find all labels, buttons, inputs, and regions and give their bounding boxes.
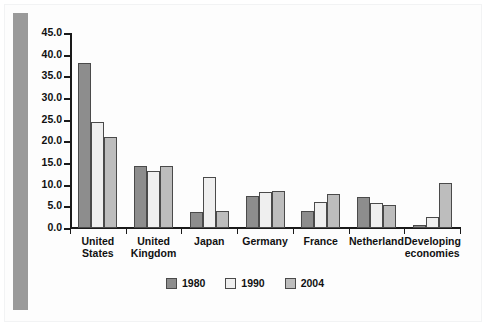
category-label-line: Japan <box>181 236 237 248</box>
bar <box>259 192 272 228</box>
bar <box>203 177 216 228</box>
y-axis-tick-label: 20.0 <box>22 134 62 146</box>
y-axis-tick-label: 40.0 <box>22 48 62 60</box>
bar <box>246 196 259 228</box>
x-axis-tick-mark <box>349 227 350 234</box>
category-label-line: Developing <box>404 236 460 248</box>
x-axis-category-label: Germany <box>237 236 293 248</box>
legend-label: 1980 <box>182 277 205 289</box>
x-axis-tick-mark <box>237 227 238 234</box>
x-axis-tick-mark <box>460 227 461 234</box>
bar <box>160 166 173 228</box>
y-axis-tick-label: 25.0 <box>22 113 62 125</box>
x-axis-tick-mark <box>126 227 127 234</box>
bar-group <box>413 33 452 228</box>
bar <box>134 166 147 228</box>
legend-label: 2004 <box>301 277 324 289</box>
x-axis-category-label: UnitedStates <box>70 236 126 259</box>
bar <box>147 171 160 228</box>
bar-group <box>190 33 229 228</box>
y-axis-tick-label: 0.0 <box>22 221 62 233</box>
plot-area <box>70 33 460 228</box>
y-axis-tick-label: 45.0 <box>22 26 62 38</box>
y-axis-tick-label: 15.0 <box>22 156 62 168</box>
legend-item[interactable]: 1980 <box>166 277 205 289</box>
category-label-line: France <box>293 236 349 248</box>
bar <box>357 197 370 228</box>
y-axis-tick-label: 5.0 <box>22 199 62 211</box>
y-axis-tick-label: 35.0 <box>22 69 62 81</box>
chart-legend: 198019902004 <box>0 277 490 289</box>
bar <box>383 205 396 228</box>
bar-chart-figure: 0.05.010.015.020.025.030.035.040.045.0 U… <box>0 0 490 331</box>
x-axis-category-label: UnitedKingdom <box>126 236 182 259</box>
x-axis-category-label: France <box>293 236 349 248</box>
bar-group <box>134 33 173 228</box>
bar-group <box>357 33 396 228</box>
bar <box>426 217 439 228</box>
x-axis-tick-mark <box>404 227 405 234</box>
bar-group <box>246 33 285 228</box>
bar <box>272 191 285 228</box>
legend-item[interactable]: 2004 <box>285 277 324 289</box>
bar-group <box>301 33 340 228</box>
x-axis-category-label: Japan <box>181 236 237 248</box>
category-label-line: United <box>126 236 182 248</box>
category-label-line: Netherland <box>349 236 405 248</box>
bar <box>314 202 327 228</box>
x-axis-category-label: Netherland <box>349 236 405 248</box>
bar <box>78 63 91 228</box>
bar <box>104 137 117 228</box>
category-label-line: Kingdom <box>126 248 182 260</box>
y-axis-tick-label: 10.0 <box>22 178 62 190</box>
bar <box>91 122 104 228</box>
bar <box>439 183 452 228</box>
legend-swatch-icon <box>166 278 177 289</box>
category-label-line: economies <box>404 248 460 260</box>
x-axis-tick-mark <box>293 227 294 234</box>
x-axis-tick-mark <box>181 227 182 234</box>
bar <box>413 225 426 228</box>
bar <box>370 203 383 228</box>
y-axis-tick-label: 30.0 <box>22 91 62 103</box>
bar <box>301 211 314 228</box>
bar-group <box>78 33 117 228</box>
legend-item[interactable]: 1990 <box>225 277 264 289</box>
bar <box>216 211 229 228</box>
x-axis-tick-mark <box>70 227 71 234</box>
category-label-line: States <box>70 248 126 260</box>
legend-swatch-icon <box>225 278 236 289</box>
legend-label: 1990 <box>241 277 264 289</box>
x-axis-category-label: Developingeconomies <box>404 236 460 259</box>
bar <box>190 212 203 228</box>
legend-swatch-icon <box>285 278 296 289</box>
bar <box>327 194 340 228</box>
category-label-line: Germany <box>237 236 293 248</box>
category-label-line: United <box>70 236 126 248</box>
